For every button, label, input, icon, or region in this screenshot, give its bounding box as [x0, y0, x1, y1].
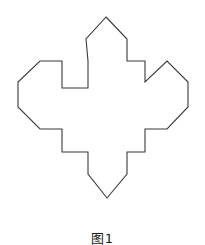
figure-canvas — [0, 0, 205, 215]
figure-page: 图1 — [0, 0, 205, 245]
figure-caption: 图1 — [0, 232, 205, 245]
